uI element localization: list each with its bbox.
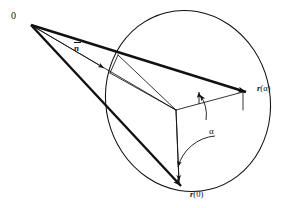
radius-line-r-zero xyxy=(176,110,179,181)
angle-alpha-label: α xyxy=(209,127,214,136)
normal-axis-vector xyxy=(31,25,176,110)
origin-label: 0 xyxy=(11,11,16,21)
r-alpha-argument: (α) xyxy=(260,83,270,93)
r-zero-argument: (0) xyxy=(193,189,203,199)
normal-vector-label: n xyxy=(74,42,81,53)
r-zero-label: r(0) xyxy=(190,190,203,199)
figure-canvas xyxy=(0,0,291,208)
rotation-circle xyxy=(86,0,289,208)
r-alpha-label: r(α) xyxy=(257,84,270,93)
normal-vector-symbol: n xyxy=(74,43,79,53)
vector-rotation-figure: 0 n r(α) r(0) α xyxy=(0,0,291,208)
